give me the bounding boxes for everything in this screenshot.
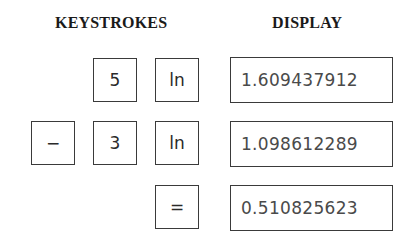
key-5: 5 [93,58,137,102]
display-row-1: 1.609437912 [230,57,393,103]
key-minus: − [31,121,75,165]
display-row-2: 1.098612289 [230,121,393,167]
key-equals: = [155,185,199,229]
display-header: DISPLAY [272,14,342,32]
key-ln: ln [155,121,199,165]
key-3: 3 [93,121,137,165]
key-ln: ln [155,58,199,102]
display-row-3: 0.510825623 [230,185,393,231]
keystrokes-header: KEYSTROKES [55,14,167,32]
